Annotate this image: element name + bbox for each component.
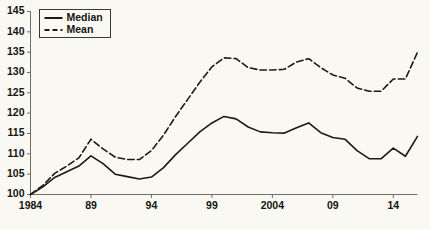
- chart-plot-area: 1001051101151201251301351401451984899499…: [0, 0, 430, 229]
- legend-label-median: Median: [67, 11, 103, 23]
- series-line-mean: [31, 52, 418, 194]
- y-tick-label: 135: [7, 45, 25, 57]
- y-tick-label: 110: [8, 147, 25, 159]
- legend-label-mean: Mean: [67, 23, 94, 35]
- x-tick-label: 2004: [261, 199, 285, 211]
- x-tick-label: 14: [387, 199, 399, 211]
- y-tick-label: 105: [7, 167, 25, 179]
- x-tick-label: 1984: [19, 199, 43, 211]
- y-tick-label: 145: [7, 4, 25, 16]
- y-tick-label: 100: [7, 187, 25, 199]
- y-tick-label: 130: [7, 65, 25, 77]
- y-tick-label: 140: [7, 25, 25, 37]
- y-tick-label: 115: [8, 126, 25, 138]
- x-tick-label: 99: [206, 199, 218, 211]
- y-tick-label: 120: [7, 106, 25, 118]
- x-tick-label: 89: [85, 199, 97, 211]
- line-chart: 1001051101151201251301351401451984899499…: [0, 0, 430, 229]
- series-line-median: [31, 116, 418, 194]
- y-tick-label: 125: [7, 86, 25, 98]
- x-tick-label: 94: [146, 199, 158, 211]
- x-tick-label: 09: [327, 199, 339, 211]
